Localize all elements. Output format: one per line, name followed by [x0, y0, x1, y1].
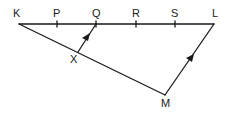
label-P: P [53, 7, 60, 19]
parallel-arrow-icon [186, 54, 194, 62]
label-R: R [132, 7, 140, 19]
label-S: S [171, 7, 178, 19]
label-Q: Q [92, 7, 101, 19]
label-M: M [161, 97, 170, 109]
label-X: X [70, 53, 78, 65]
label-K: K [13, 7, 21, 19]
geometry-diagram: K P Q R S L X M [0, 0, 227, 117]
label-L: L [212, 7, 218, 19]
parallel-arrow-icon [82, 33, 90, 41]
segment-KM [19, 24, 165, 95]
